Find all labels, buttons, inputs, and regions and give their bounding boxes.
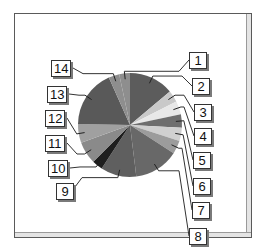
callout-label-10: 10 (48, 160, 68, 177)
leader-line (159, 171, 189, 236)
callout-label-8: 8 (189, 228, 207, 245)
callout-label-12: 12 (45, 110, 65, 127)
leader-line (73, 68, 113, 74)
leader-line (124, 60, 189, 71)
leader-line (67, 143, 84, 154)
leader-tick (176, 121, 184, 122)
callout-label-1: 1 (189, 52, 207, 69)
callout-label-11: 11 (45, 135, 65, 152)
leader-line (72, 178, 118, 191)
leader-line (67, 118, 77, 134)
leader-line (70, 167, 96, 168)
callout-label-14: 14 (51, 60, 71, 77)
pie-chart (0, 0, 265, 251)
callout-label-13: 13 (47, 86, 67, 103)
callout-label-5: 5 (193, 152, 211, 169)
callout-label-4: 4 (194, 128, 212, 145)
callout-label-3: 3 (194, 104, 212, 121)
leader-line (184, 121, 193, 160)
leader-line (183, 135, 193, 186)
callout-label-2: 2 (192, 78, 210, 95)
leader-line (181, 107, 194, 136)
callout-label-6: 6 (193, 178, 211, 195)
callout-label-7: 7 (192, 202, 210, 219)
callout-label-9: 9 (56, 183, 74, 200)
leader-line (69, 94, 85, 95)
